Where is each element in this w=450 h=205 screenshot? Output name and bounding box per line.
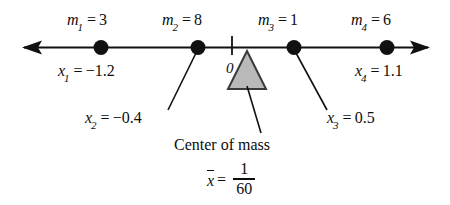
position-label-3: x3=0.5 — [327, 110, 375, 129]
position-equals-1: = — [71, 62, 86, 79]
mass-symbol-3: m — [258, 11, 270, 28]
mass-value-4: 6 — [383, 11, 391, 28]
mass-equals-2: = — [179, 11, 194, 28]
center-of-mass-figure: m1=3 m2=8 m3=1 m4=6 0 x1=−1.2 x2=−0.4 x3… — [0, 0, 450, 205]
mass-label-3: m3=1 — [258, 12, 298, 31]
position-value-4: 1.1 — [383, 62, 403, 79]
mass-index-4: 4 — [362, 21, 368, 33]
position-equals-2: = — [98, 109, 113, 126]
leader-line-center-of-mass — [247, 86, 261, 133]
mass-equals-4: = — [368, 11, 383, 28]
center-of-mass-caption: Center of mass — [174, 136, 270, 154]
mass-symbol-4: m — [351, 11, 363, 28]
position-label-2: x2=−0.4 — [85, 110, 142, 129]
center-of-mass-fraction: 1 60 — [233, 161, 255, 197]
mass-equals-3: = — [275, 11, 290, 28]
position-value-3: 0.5 — [355, 109, 375, 126]
fraction-numerator: 1 — [237, 161, 251, 177]
mass-index-2: 2 — [173, 21, 179, 33]
position-value-2: −0.4 — [113, 109, 142, 126]
mass-value-3: 1 — [290, 11, 298, 28]
leader-line-x2 — [168, 53, 196, 110]
position-equals-4: = — [368, 62, 383, 79]
fraction-denominator: 60 — [233, 181, 255, 197]
position-value-1: −1.2 — [86, 62, 115, 79]
mass-index-3: 3 — [269, 21, 275, 33]
origin-label: 0 — [226, 60, 234, 77]
position-index-2: 2 — [91, 119, 97, 131]
center-of-mass-equation: x = 1 60 — [207, 162, 255, 198]
x-bar-symbol: x — [207, 171, 214, 190]
mass-point-4 — [380, 40, 395, 55]
mass-label-4: m4=6 — [351, 12, 391, 31]
mass-label-2: m2=8 — [162, 12, 202, 31]
mass-point-3 — [287, 40, 302, 55]
center-of-mass-equals: = — [214, 171, 229, 189]
position-index-4: 4 — [361, 72, 367, 84]
mass-symbol-2: m — [162, 11, 174, 28]
position-label-1: x1=−1.2 — [58, 63, 115, 82]
mass-value-1: 3 — [99, 11, 107, 28]
leader-line-x3 — [296, 53, 327, 110]
mass-label-1: m1=3 — [67, 12, 107, 31]
mass-index-1: 1 — [78, 21, 84, 33]
mass-point-2 — [191, 40, 206, 55]
position-index-3: 3 — [333, 119, 339, 131]
mass-equals-1: = — [84, 11, 99, 28]
position-equals-3: = — [340, 109, 355, 126]
mass-value-2: 8 — [194, 11, 202, 28]
mass-point-1 — [94, 40, 109, 55]
mass-symbol-1: m — [67, 11, 79, 28]
position-index-1: 1 — [64, 72, 70, 84]
position-label-4: x4=1.1 — [355, 63, 403, 82]
